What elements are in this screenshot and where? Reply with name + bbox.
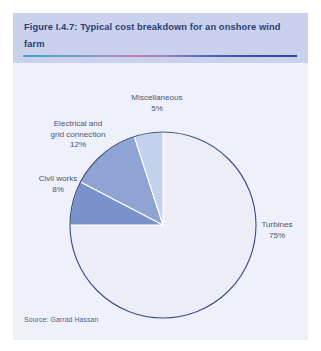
pie-label-turbines-value: 75% [247, 231, 307, 242]
pie-label-miscellaneous-name: Miscellaneous [131, 93, 182, 102]
pie-label-turbines: Turbines 75% [247, 220, 307, 241]
pie-label-miscellaneous-value: 5% [109, 104, 205, 115]
pie-label-civil-works-value: 8% [14, 185, 102, 196]
figure-header: Figure I.4.7: Typical cost breakdown for… [13, 13, 308, 63]
pie-label-civil-works-name: Civil works [39, 174, 78, 183]
pie-label-electrical-grid-name-line2: grid connection [26, 130, 130, 141]
pie-label-electrical-grid-value: 12% [26, 140, 130, 151]
pie-label-electrical-grid: Electrical and grid connection 12% [26, 119, 130, 151]
pie-chart: Miscellaneous 5% Electrical and grid con… [13, 63, 308, 340]
pie-label-turbines-name: Turbines [261, 220, 292, 229]
figure-panel: Figure I.4.7: Typical cost breakdown for… [13, 13, 308, 340]
figure-divider-rule [23, 55, 297, 57]
pie-label-electrical-grid-name-line1: Electrical and [54, 119, 103, 128]
figure-source: Source: Garrad Hassan [24, 316, 99, 323]
pie-label-civil-works: Civil works 8% [14, 174, 102, 195]
pie-label-miscellaneous: Miscellaneous 5% [109, 93, 205, 114]
figure-title: Figure I.4.7: Typical cost breakdown for… [24, 19, 292, 53]
